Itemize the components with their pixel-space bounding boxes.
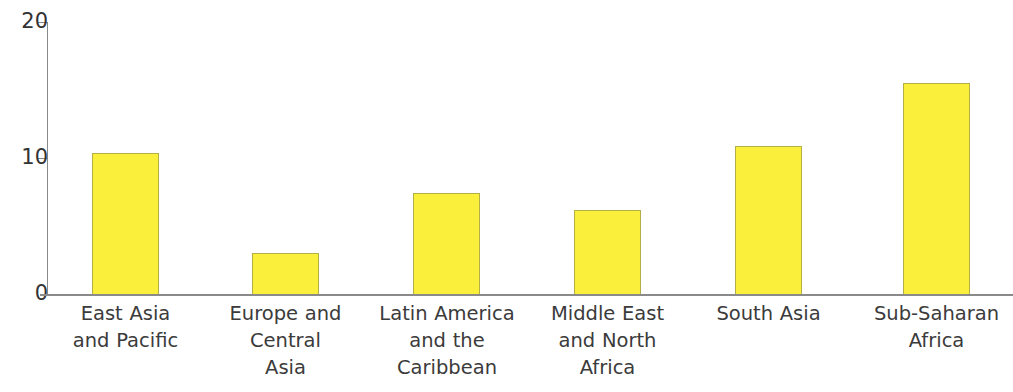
plot-area — [0, 0, 1013, 294]
x-axis-labels: East Asia and Pacific Europe and Central… — [0, 300, 1013, 392]
x-label-line: Middle East — [537, 300, 678, 327]
bar-middle-east-and-north-africa — [574, 210, 641, 294]
bar-east-asia-and-pacific — [92, 153, 159, 294]
bar-sub-saharan-africa — [903, 83, 970, 294]
x-label-line: Africa — [860, 327, 1013, 354]
x-label-line: South Asia — [698, 300, 839, 327]
x-label-south-asia: South Asia — [698, 300, 839, 327]
x-axis-line — [40, 294, 1013, 296]
x-label-europe-and-central-asia: Europe and Central Asia — [215, 300, 356, 381]
bar-chart: 20 10 0 East Asia and Pacific Europe and… — [0, 0, 1013, 392]
x-label-middle-east-and-north-africa: Middle East and North Africa — [537, 300, 678, 381]
x-label-line: and Pacific — [55, 327, 196, 354]
x-label-line: and the — [370, 327, 524, 354]
bar-latin-america-and-the-caribbean — [413, 193, 480, 294]
x-label-sub-saharan-africa: Sub-Saharan Africa — [860, 300, 1013, 354]
x-label-line: Asia — [215, 354, 356, 381]
bar-europe-and-central-asia — [252, 253, 319, 294]
x-label-line: Europe and — [215, 300, 356, 327]
x-label-latin-america-and-the-caribbean: Latin America and the Caribbean — [370, 300, 524, 381]
x-label-line: Central — [215, 327, 356, 354]
bar-south-asia — [735, 146, 802, 294]
x-label-line: Caribbean — [370, 354, 524, 381]
x-label-line: and North — [537, 327, 678, 354]
x-label-line: Sub-Saharan — [860, 300, 1013, 327]
x-label-line: Africa — [537, 354, 678, 381]
x-label-line: East Asia — [55, 300, 196, 327]
x-label-east-asia-and-pacific: East Asia and Pacific — [55, 300, 196, 354]
x-label-line: Latin America — [370, 300, 524, 327]
